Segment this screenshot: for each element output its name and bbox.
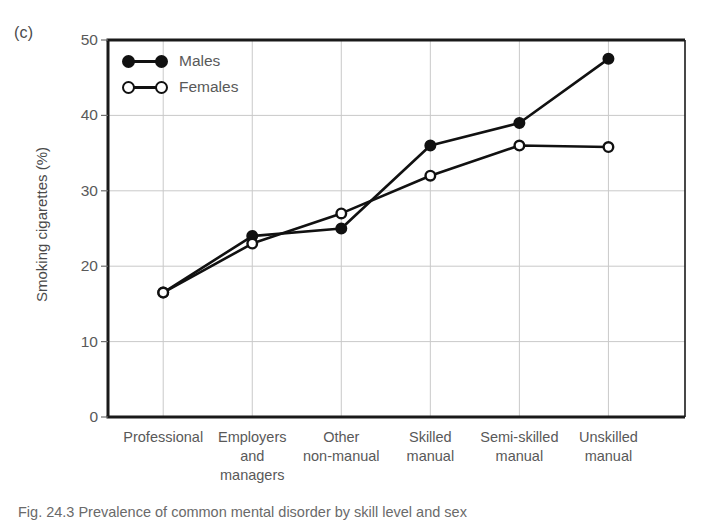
- chart-legend: Males Females: [122, 48, 238, 100]
- data-point-females: [515, 141, 525, 151]
- y-tick-label: 0: [50, 408, 98, 426]
- y-tick-label: 50: [50, 31, 98, 49]
- data-point-females: [336, 209, 346, 219]
- figure-caption: Fig. 24.3 Prevalence of common mental di…: [18, 503, 686, 520]
- figure-panel-c: (c) Smoking cigarettes (%) 01020304050 P…: [0, 0, 701, 520]
- data-point-males: [336, 223, 346, 233]
- legend-entry-males: Males: [122, 48, 238, 74]
- x-tick-label: Semi-skilled manual: [480, 428, 558, 466]
- open-circle-marker-icon: [122, 80, 168, 94]
- y-tick-label: 20: [50, 257, 98, 275]
- data-point-males: [514, 118, 524, 128]
- y-tick-label: 10: [50, 333, 98, 351]
- data-point-females: [158, 288, 168, 298]
- y-tick-label: 30: [50, 182, 98, 200]
- legend-label-males: Males: [179, 52, 220, 70]
- x-tick-label: Skilled manual: [407, 428, 455, 466]
- series-line-females: [163, 146, 608, 293]
- data-point-females: [426, 171, 436, 181]
- data-point-males: [425, 140, 435, 150]
- data-point-males: [603, 54, 613, 64]
- filled-circle-marker-icon: [122, 54, 168, 68]
- x-tick-label: Employers and managers: [218, 428, 287, 485]
- x-tick-label: Unskilled manual: [579, 428, 638, 466]
- legend-label-females: Females: [179, 78, 238, 96]
- y-tick-label: 40: [50, 106, 98, 124]
- data-point-females: [604, 142, 614, 152]
- x-tick-label: Professional: [123, 428, 203, 447]
- x-tick-label: Other non-manual: [303, 428, 380, 466]
- legend-entry-females: Females: [122, 74, 238, 100]
- data-point-females: [247, 239, 257, 249]
